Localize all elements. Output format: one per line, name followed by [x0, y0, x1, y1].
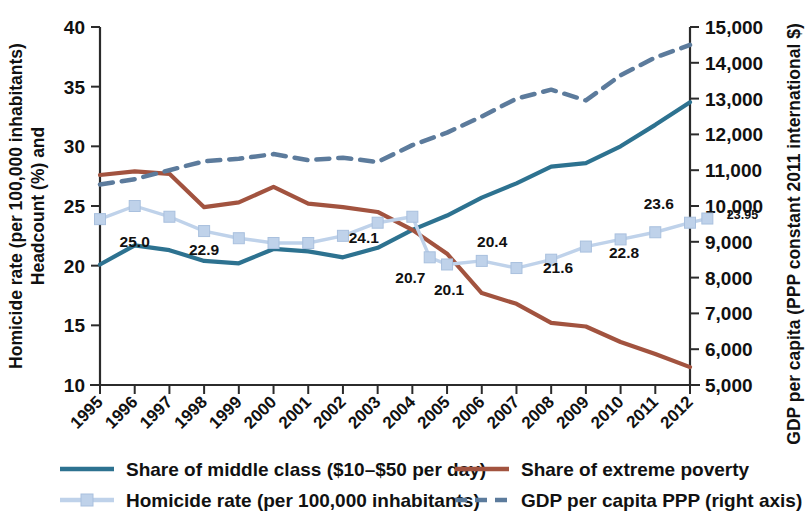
- x-axis-tick-label: 2003: [344, 392, 384, 432]
- x-axis-ticks: 1995199619971998199920002001200220032004…: [67, 385, 697, 433]
- y-axis-left-tick-label: 25: [64, 196, 86, 217]
- x-axis-tick-label: 1995: [67, 392, 107, 432]
- y-axis-left-title: Homicide rate (per 100,000 inhabitants)H…: [6, 43, 48, 369]
- series-marker: [233, 233, 244, 244]
- series-marker: [424, 252, 435, 263]
- y-axis-left-tick-label: 40: [64, 17, 85, 38]
- data-point-label: 23.6: [644, 195, 675, 212]
- series-group: [95, 45, 713, 367]
- chart-legend: Share of middle class ($10–$50 per day)S…: [60, 459, 802, 511]
- series-marker: [372, 217, 383, 228]
- legend-item[interactable]: Share of middle class ($10–$50 per day): [60, 459, 486, 480]
- data-point-label: 23.95: [727, 208, 758, 222]
- series-marker: [476, 255, 487, 266]
- legend-item[interactable]: Share of extreme poverty: [455, 459, 750, 480]
- y-axis-right-tick-label: 15,000: [705, 17, 763, 38]
- y-axis-right-tick-label: 13,000: [705, 89, 763, 110]
- series-marker: [199, 226, 210, 237]
- data-point-label: 25.0: [120, 233, 150, 250]
- series-marker: [95, 214, 106, 225]
- y-axis-right-tick-label: 11,000: [705, 160, 762, 181]
- y-axis-left-ticks: 10152025303540: [64, 17, 100, 396]
- y-axis-left-title-line2: Homicide rate (per 100,000 inhabitants): [6, 43, 26, 369]
- series-marker: [129, 201, 140, 212]
- y-axis-left-tick-label: 35: [64, 77, 86, 98]
- x-axis-tick-label: 2004: [379, 392, 420, 433]
- y-axis-right-tick-label: 6,000: [705, 339, 753, 360]
- y-axis-right-tick-label: 8,000: [705, 268, 753, 289]
- series-2: [95, 201, 713, 274]
- legend-label: Share of middle class ($10–$50 per day): [126, 459, 486, 480]
- series-marker: [268, 237, 279, 248]
- axis-lines: [90, 27, 700, 385]
- series-marker: [164, 211, 175, 222]
- x-axis-tick-label: 2012: [657, 392, 697, 432]
- x-axis-tick-label: 2000: [240, 392, 280, 432]
- data-point-label: 20.7: [395, 269, 425, 286]
- y-axis-left-title-line1: Headcount (%) and: [28, 127, 48, 285]
- series-marker: [442, 259, 453, 270]
- y-axis-right-ticks: 5,0006,0007,0008,0009,00010,00011,00012,…: [690, 17, 763, 396]
- x-axis-tick-label: 1996: [101, 392, 141, 432]
- y-axis-right-tick-label: 7,000: [705, 303, 753, 324]
- y-axis-left-tick-label: 30: [64, 136, 85, 157]
- x-axis-tick-label: 2001: [275, 392, 315, 432]
- y-axis-left-tick-label: 15: [64, 315, 86, 336]
- data-point-label: 24.1: [349, 229, 380, 246]
- y-axis-right-title-text: GDP per capita (PPP constant 2011 intern…: [784, 23, 804, 444]
- y-axis-left-tick-label: 20: [64, 256, 85, 277]
- x-axis-tick-label: 2007: [483, 392, 523, 432]
- y-axis-right-tick-label: 9,000: [705, 232, 753, 253]
- data-point-label: 22.9: [189, 241, 220, 258]
- x-axis-tick-label: 2011: [623, 392, 663, 432]
- y-axis-right-title: GDP per capita (PPP constant 2011 intern…: [784, 23, 804, 444]
- y-axis-right-tick-label: 12,000: [705, 124, 763, 145]
- x-axis-tick-label: 2005: [414, 392, 454, 432]
- series-marker: [407, 211, 418, 222]
- chart-container: Homicide rate (per 100,000 inhabitants)H…: [0, 0, 812, 520]
- x-axis-tick-label: 1998: [171, 392, 211, 432]
- x-axis-tick-label: 1999: [205, 392, 245, 432]
- legend-marker: [81, 494, 93, 506]
- series-marker: [615, 234, 626, 245]
- legend-item[interactable]: GDP per capita PPP (right axis): [455, 490, 802, 511]
- data-point-label: 22.8: [609, 244, 640, 261]
- x-axis-tick-label: 1997: [136, 392, 176, 432]
- legend-item[interactable]: Homicide rate (per 100,000 inhabitants): [60, 490, 480, 511]
- legend-label: Share of extreme poverty: [521, 459, 750, 480]
- y-axis-left-tick-label: 10: [64, 375, 85, 396]
- data-point-label: 20.4: [477, 233, 508, 250]
- series-marker: [702, 213, 713, 224]
- series-marker: [511, 263, 522, 274]
- series-marker: [685, 217, 696, 228]
- series-marker: [580, 241, 591, 252]
- legend-label: GDP per capita PPP (right axis): [521, 490, 802, 511]
- x-axis-tick-label: 2010: [587, 392, 627, 432]
- data-point-label: 20.1: [434, 281, 465, 298]
- series-marker: [650, 227, 661, 238]
- series-3: [100, 45, 690, 185]
- series-marker: [303, 237, 314, 248]
- x-axis-tick-label: 2002: [310, 392, 350, 432]
- line-chart: Homicide rate (per 100,000 inhabitants)H…: [0, 0, 812, 520]
- x-axis-tick-label: 2009: [553, 392, 593, 432]
- data-point-label: 21.6: [543, 259, 574, 276]
- series-marker: [337, 230, 348, 241]
- x-axis-tick-label: 2008: [518, 392, 558, 432]
- y-axis-right-tick-label: 14,000: [705, 53, 763, 74]
- legend-label: Homicide rate (per 100,000 inhabitants): [126, 490, 480, 511]
- x-axis-tick-label: 2006: [448, 392, 488, 432]
- y-axis-right-tick-label: 5,000: [705, 375, 753, 396]
